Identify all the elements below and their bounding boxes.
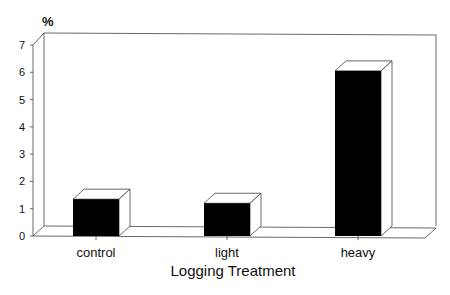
bar-chart: 01234567 controllightheavy % Logging Tre…	[0, 0, 450, 295]
x-tick-label: heavy	[341, 245, 376, 260]
y-tick-label: 2	[19, 175, 25, 187]
y-tick-label: 1	[19, 203, 25, 215]
x-axis: controllightheavy	[76, 236, 375, 260]
y-tick-label: 3	[19, 148, 25, 160]
bars	[73, 61, 392, 236]
bar-heavy	[335, 61, 392, 236]
bar-control	[73, 189, 130, 236]
y-tick-label: 6	[19, 66, 25, 78]
y-tick-label: 0	[19, 230, 25, 242]
y-tick-label: 7	[19, 39, 25, 51]
y-axis: 01234567	[19, 39, 33, 242]
x-axis-title: Logging Treatment	[170, 262, 296, 279]
x-tick-label: light	[215, 245, 239, 260]
y-tick-label: 5	[19, 94, 25, 106]
x-tick-label: control	[76, 245, 115, 260]
chart-canvas: 01234567 controllightheavy % Logging Tre…	[0, 0, 450, 295]
y-axis-label: %	[42, 14, 54, 29]
bar-light	[204, 193, 261, 236]
y-tick-label: 4	[19, 121, 25, 133]
